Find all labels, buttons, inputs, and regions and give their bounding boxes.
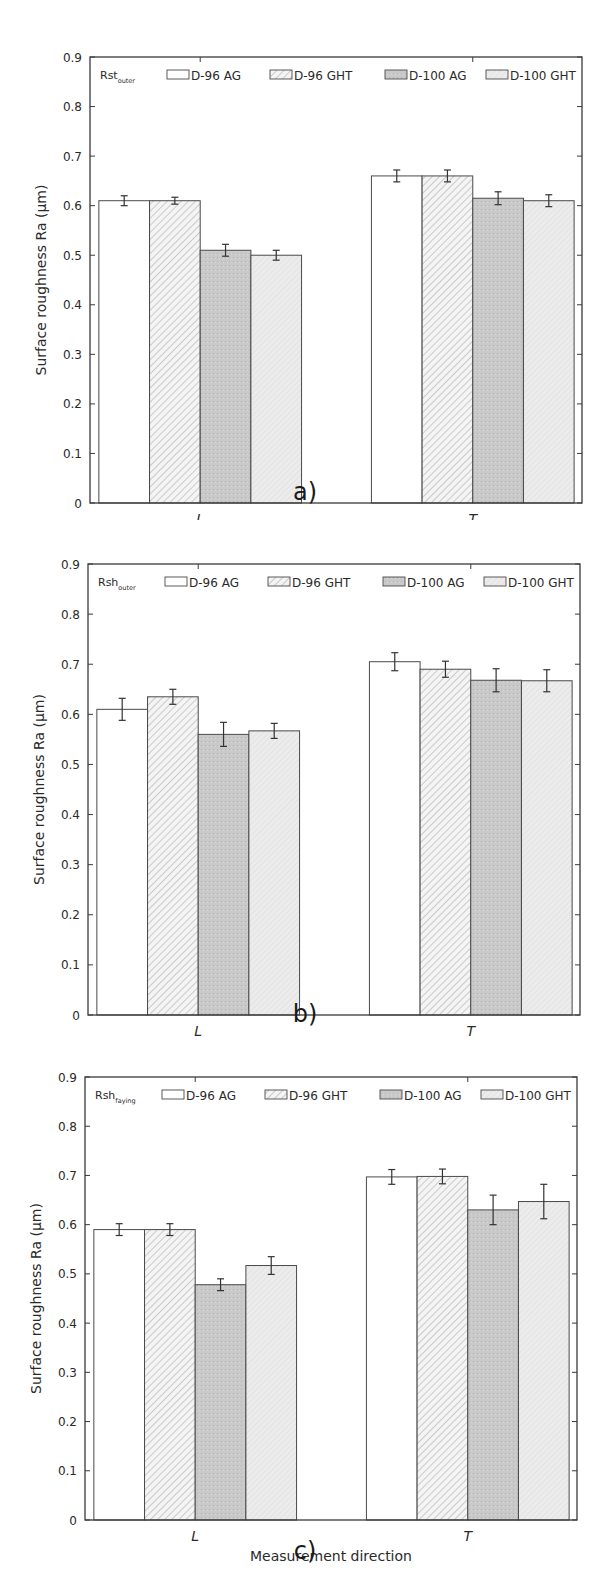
bars: [97, 653, 572, 1015]
y-tick-label: 0.1: [58, 1464, 77, 1478]
legend-swatch: [167, 70, 189, 79]
legend: D-96 AGD-96 GHTD-100 AGD-100 GHT: [162, 1089, 572, 1103]
legend-item: D-96 AG: [189, 576, 239, 590]
y-tick-label: 0.5: [58, 1267, 77, 1281]
panel-label: Rstouter: [100, 69, 135, 85]
y-tick-label: 0.8: [63, 100, 82, 114]
bar-L-3: [249, 731, 300, 1015]
chart-c: 00.10.20.30.40.50.60.70.80.9LTMeasuremen…: [0, 1040, 610, 1576]
y-tick-label: 0.9: [58, 1071, 77, 1085]
bar-T-0: [369, 662, 420, 1015]
bar-L-0: [97, 709, 148, 1015]
legend-item: D-100 GHT: [508, 576, 575, 590]
legend-swatch: [484, 577, 506, 586]
legend: D-96 AGD-96 GHTD-100 AGD-100 GHT: [165, 576, 575, 590]
legend-item: D-100 GHT: [505, 1089, 572, 1103]
caption-c: c): [0, 1537, 610, 1565]
bar-T-1: [422, 176, 473, 503]
bar-L-1: [145, 1230, 196, 1520]
y-tick-label: 0.4: [63, 298, 82, 312]
y-tick-label: 0.2: [58, 1415, 77, 1429]
legend: D-96 AGD-96 GHTD-100 AGD-100 GHT: [167, 69, 577, 83]
y-tick-label: 0.3: [61, 858, 80, 872]
bar-L-1: [150, 201, 201, 503]
legend-swatch: [268, 577, 290, 586]
legend-item: D-96 GHT: [292, 576, 351, 590]
y-tick-label: 0.3: [58, 1366, 77, 1380]
y-axis-title: Surface roughness Ra (μm): [31, 694, 47, 885]
y-tick-label: 0.9: [63, 51, 82, 65]
y-tick-label: 0.7: [63, 150, 82, 164]
chart-b: 00.10.20.30.40.50.60.70.80.9LTMeasuremen…: [0, 520, 610, 1040]
bar-L-2: [200, 250, 251, 503]
legend-swatch: [380, 1090, 402, 1099]
bar-L-0: [99, 201, 150, 503]
legend-swatch: [270, 70, 292, 79]
legend-swatch: [383, 577, 405, 586]
bar-T-0: [366, 1177, 417, 1520]
bar-T-3: [518, 1202, 569, 1520]
y-tick-label: 0.8: [61, 608, 80, 622]
legend-item: D-96 GHT: [289, 1089, 348, 1103]
bars: [94, 1169, 569, 1520]
legend-swatch: [486, 70, 508, 79]
y-tick-label: 0.5: [63, 249, 82, 263]
legend-swatch: [265, 1090, 287, 1099]
chart-a: 00.10.20.30.40.50.60.70.80.9LTMeasuremen…: [0, 0, 610, 520]
bar-L-0: [94, 1230, 145, 1520]
bars: [99, 170, 574, 503]
bar-T-0: [371, 176, 422, 503]
bar-L-2: [198, 734, 249, 1015]
y-tick-label: 0: [69, 1514, 77, 1528]
bar-T-3: [521, 681, 572, 1015]
y-tick-label: 0.9: [61, 558, 80, 572]
bar-T-1: [420, 669, 471, 1015]
panel-label: Rshouter: [98, 576, 136, 592]
bar-L-3: [246, 1266, 297, 1520]
y-tick-label: 0.1: [63, 447, 82, 461]
chart-panel-b: 00.10.20.30.40.50.60.70.80.9LTMeasuremen…: [0, 520, 610, 1040]
legend-item: D-96 AG: [186, 1089, 236, 1103]
chart-panel-a: 00.10.20.30.40.50.60.70.80.9LTMeasuremen…: [0, 0, 610, 520]
bar-L-1: [148, 697, 199, 1015]
y-tick-label: 0.2: [61, 908, 80, 922]
y-tick-label: 0.5: [61, 758, 80, 772]
x-category-label: T: [468, 511, 478, 520]
legend-item: D-96 AG: [191, 69, 241, 83]
caption-b: b): [0, 1000, 610, 1028]
y-tick-label: 0.8: [58, 1120, 77, 1134]
bar-T-2: [473, 198, 524, 503]
y-tick-label: 0.2: [63, 397, 82, 411]
y-tick-label: 0.3: [63, 348, 82, 362]
legend-swatch: [165, 577, 187, 586]
legend-swatch: [385, 70, 407, 79]
bar-T-3: [523, 201, 574, 503]
y-tick-label: 0.6: [63, 199, 82, 213]
y-tick-label: 0.1: [61, 958, 80, 972]
caption-a: a): [0, 478, 610, 506]
legend-item: D-100 AG: [404, 1089, 462, 1103]
bar-T-2: [471, 680, 522, 1015]
y-axis-title: Surface roughness Ra (μm): [33, 185, 49, 376]
y-tick-label: 0.4: [58, 1317, 77, 1331]
bar-T-2: [468, 1210, 519, 1520]
y-tick-label: 0.6: [61, 708, 80, 722]
legend-item: D-100 AG: [409, 69, 467, 83]
bar-L-2: [195, 1285, 246, 1520]
y-axis-title: Surface roughness Ra (μm): [28, 1203, 44, 1394]
legend-item: D-96 GHT: [294, 69, 353, 83]
bar-T-1: [417, 1176, 468, 1520]
legend-item: D-100 GHT: [510, 69, 577, 83]
y-tick-label: 0.7: [61, 658, 80, 672]
legend-swatch: [162, 1090, 184, 1099]
x-category-label: L: [196, 511, 204, 520]
legend-swatch: [481, 1090, 503, 1099]
y-tick-label: 0.6: [58, 1218, 77, 1232]
y-tick-label: 0.4: [61, 808, 80, 822]
legend-item: D-100 AG: [407, 576, 465, 590]
chart-panel-c: 00.10.20.30.40.50.60.70.80.9LTMeasuremen…: [0, 1040, 610, 1576]
bar-L-3: [251, 255, 302, 503]
y-tick-label: 0.7: [58, 1169, 77, 1183]
panel-label: Rshfaying: [95, 1089, 136, 1105]
